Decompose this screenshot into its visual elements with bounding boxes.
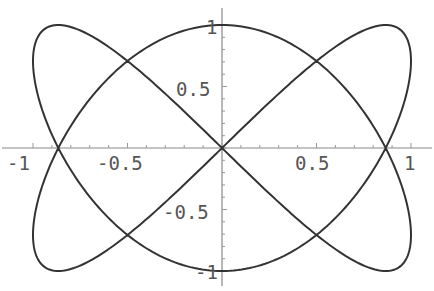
x-tick-label: 0.5: [295, 152, 329, 174]
parametric-plot: -1 -0.5 0.5 1 1 0.5 -0.5 -1: [0, 0, 434, 291]
y-tick-label: 0.5: [176, 78, 210, 100]
x-tick-label: -1: [7, 152, 30, 174]
axes: [2, 8, 432, 286]
y-tick-labels: 1 0.5 -0.5 -1: [163, 16, 218, 283]
x-tick-label: 1: [404, 152, 415, 174]
y-tick-label: 1: [206, 16, 217, 38]
x-tick-labels: -1 -0.5 0.5 1: [7, 152, 415, 174]
y-tick-label: -0.5: [163, 201, 209, 223]
y-tick-label: -1: [195, 261, 218, 283]
x-tick-label: -0.5: [97, 152, 143, 174]
